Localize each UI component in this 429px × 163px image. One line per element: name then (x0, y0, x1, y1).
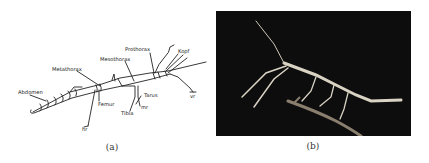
label-vr: vr (190, 93, 196, 99)
caption-a: (a) (92, 142, 132, 152)
panel-a-diagram: Abdomen Metathorax Mesothorax Prothorax … (0, 0, 215, 163)
caption-b: (b) (293, 141, 333, 151)
stick-insect-photo-illustration (216, 11, 411, 136)
label-tarus: Tarus (143, 92, 158, 98)
label-abdomen: Abdomen (18, 89, 43, 95)
label-kopf: Kopf (178, 48, 190, 55)
label-femur: Femur (98, 101, 115, 107)
label-metathorax: Metathorax (52, 66, 82, 72)
stick-insect-photo (216, 11, 411, 136)
label-mr: mr (141, 104, 149, 110)
stick-insect-diagram: Abdomen Metathorax Mesothorax Prothorax … (0, 0, 215, 163)
label-prothorax: Prothorax (125, 46, 150, 52)
label-tibia: Tibia (120, 110, 133, 116)
label-mesothorax: Mesothorax (100, 56, 130, 62)
label-hr: hr (82, 126, 88, 132)
panel-b-photo: (b) (215, 0, 429, 163)
